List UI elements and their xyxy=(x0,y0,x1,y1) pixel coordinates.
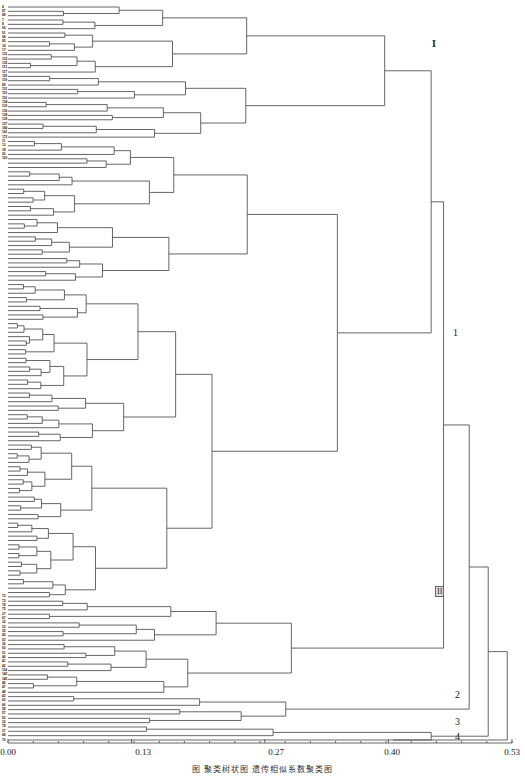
leaf-label: 103 xyxy=(2,157,7,160)
dendrogram-plot xyxy=(0,0,525,776)
leaf-label: 133 xyxy=(2,105,7,108)
leaf-label: 115 xyxy=(2,92,7,95)
x-tick-4: 0.53 xyxy=(504,747,520,757)
leaf-label: 50 xyxy=(2,647,6,650)
leaf-label: 75 xyxy=(2,608,6,611)
leaf-label: 32 xyxy=(2,621,6,624)
leaf-label: 63 xyxy=(2,699,6,702)
leaf-label: 41 xyxy=(2,660,6,663)
leaf-label: 95 xyxy=(2,40,6,43)
leaf-label: 90 xyxy=(2,27,6,30)
cluster-label-1: 1 xyxy=(453,327,458,338)
cluster-label-I: I xyxy=(432,38,436,49)
leaf-label: 113 xyxy=(2,66,7,69)
x-tick-2: 0.27 xyxy=(268,747,284,757)
leaf-label: 68 xyxy=(2,734,6,737)
cluster-label-3: 3 xyxy=(455,716,460,727)
leaf-label: 131 xyxy=(2,53,7,56)
leaf-label: 142 xyxy=(2,673,7,676)
leaf-label: 119 xyxy=(2,79,7,82)
leaf-label: 141 xyxy=(2,131,7,134)
leaf-label: 139 xyxy=(2,118,7,121)
cluster-label-4: 4 xyxy=(455,731,460,742)
leaf-label: 88 xyxy=(2,14,6,17)
cluster-label-2: 2 xyxy=(455,689,460,700)
x-tick-1: 0.13 xyxy=(135,747,151,757)
cluster-label-II: II xyxy=(435,586,444,597)
x-tick-3: 0.40 xyxy=(384,747,400,757)
figure-caption: 图 聚类树状图 遗传相似系数聚类图 xyxy=(0,763,525,774)
leaf-label: 72 xyxy=(2,595,6,598)
leaf-label: 45 xyxy=(2,634,6,637)
leaf-label: 47 xyxy=(2,686,6,689)
leaf-label: 13 xyxy=(2,144,6,147)
x-tick-0: 0.00 xyxy=(0,747,16,757)
leaf-label: 70 xyxy=(2,739,6,742)
